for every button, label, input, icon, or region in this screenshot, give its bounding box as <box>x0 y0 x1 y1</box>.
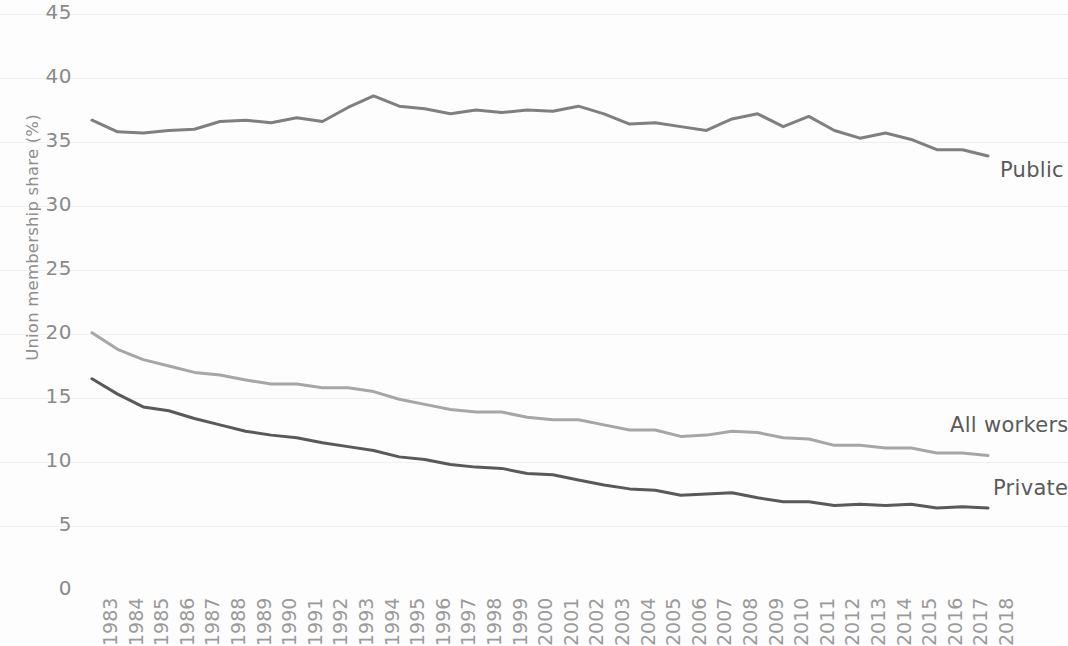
y-tick-label: 5 <box>30 512 72 536</box>
x-tick-label: 1996 <box>432 598 454 646</box>
chart-figure: Union membership share (%) 0510152025303… <box>0 0 1068 646</box>
y-tick-label: 45 <box>30 0 72 24</box>
x-tick-label: 2000 <box>534 598 556 646</box>
x-tick-label: 1994 <box>381 598 403 646</box>
x-tick-label: 1983 <box>99 598 121 646</box>
x-tick-label: 1987 <box>201 598 223 646</box>
series-label-public: Public <box>1000 158 1064 182</box>
x-tick-label: 1999 <box>509 598 531 646</box>
x-tick-label: 2005 <box>662 598 684 646</box>
x-tick-label: 2015 <box>918 598 940 646</box>
chart-svg <box>78 0 1068 600</box>
x-tick-label: 1997 <box>457 598 479 646</box>
x-tick-label: 2007 <box>713 598 735 646</box>
x-tick-label: 2003 <box>611 598 633 646</box>
x-tick-label: 1998 <box>483 598 505 646</box>
x-tick-label: 2012 <box>841 598 863 646</box>
x-tick-label: 1990 <box>278 598 300 646</box>
x-tick-label: 2002 <box>585 598 607 646</box>
x-tick-label: 1988 <box>227 598 249 646</box>
y-tick-label: 20 <box>30 320 72 344</box>
x-tick-label: 1985 <box>150 598 172 646</box>
y-tick-label: 35 <box>30 128 72 152</box>
y-tick-label: 40 <box>30 64 72 88</box>
y-tick-label: 30 <box>30 192 72 216</box>
x-tick-label: 1984 <box>125 598 147 646</box>
x-tick-label: 2006 <box>688 598 710 646</box>
x-tick-label: 1992 <box>329 598 351 646</box>
x-tick-label: 2004 <box>637 598 659 646</box>
x-tick-label: 2011 <box>816 598 838 646</box>
y-tick-label: 10 <box>30 448 72 472</box>
y-tick-label: 25 <box>30 256 72 280</box>
series-line-all-workers <box>92 333 988 456</box>
x-tick-label: 1995 <box>406 598 428 646</box>
x-tick-label: 1993 <box>355 598 377 646</box>
series-label-private: Private <box>993 476 1068 500</box>
x-tick-label: 2018 <box>995 598 1017 646</box>
x-tick-label: 2010 <box>790 598 812 646</box>
x-tick-label: 2008 <box>739 598 761 646</box>
y-axis-ticks: 051015202530354045 <box>0 0 72 646</box>
x-tick-label: 2013 <box>867 598 889 646</box>
x-tick-label: 1986 <box>176 598 198 646</box>
series-line-private <box>92 379 988 508</box>
series-label-all-workers: All workers <box>950 413 1068 437</box>
x-tick-label: 2017 <box>969 598 991 646</box>
y-tick-label: 0 <box>30 576 72 600</box>
x-tick-label: 2009 <box>765 598 787 646</box>
y-tick-label: 15 <box>30 384 72 408</box>
plot-area <box>78 0 1068 600</box>
x-tick-label: 2016 <box>944 598 966 646</box>
x-tick-label: 2014 <box>893 598 915 646</box>
x-tick-label: 1991 <box>304 598 326 646</box>
x-tick-label: 1989 <box>253 598 275 646</box>
series-line-public <box>92 96 988 156</box>
x-axis-ticks: 1983198419851986198719881989199019911992… <box>78 590 1068 646</box>
x-tick-label: 2001 <box>560 598 582 646</box>
